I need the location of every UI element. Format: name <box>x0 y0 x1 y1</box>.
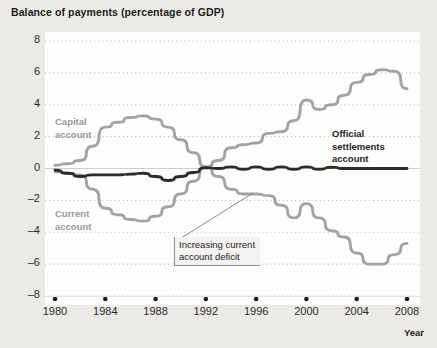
official-settlements-label-line1: Official <box>332 128 364 139</box>
y-tick-label: 6 <box>20 65 40 77</box>
x-tick-label: 1988 <box>136 305 176 317</box>
x-tick-label: 1992 <box>186 305 226 317</box>
y-tick-label: –4 <box>20 224 40 236</box>
x-tick-label: 2004 <box>337 305 377 317</box>
capital-account-label-line1: Capital <box>55 116 87 127</box>
current-account-label-line1: Current <box>55 208 89 219</box>
official-settlements-label: Official settlements account <box>332 128 385 166</box>
y-tick-label: 0 <box>20 161 40 173</box>
capital-account-label-line2: account <box>55 129 91 140</box>
x-tick-label: 1980 <box>35 305 75 317</box>
x-tick-label: 1996 <box>236 305 276 317</box>
y-tick-label: –8 <box>20 288 40 300</box>
x-tick-marker <box>405 297 410 302</box>
plot-canvas <box>0 0 437 348</box>
y-tick-label: –6 <box>20 256 40 268</box>
x-tick-marker <box>204 297 209 302</box>
x-tick-label: 1984 <box>85 305 125 317</box>
y-tick-label: 8 <box>20 33 40 45</box>
x-tick-label: 2008 <box>387 305 427 317</box>
x-axis-title: Year <box>404 327 424 338</box>
capital-account-label: Capital account <box>55 116 91 141</box>
chart-figure: Balance of payments (percentage of GDP) … <box>0 0 437 348</box>
y-tick-label: 2 <box>20 129 40 141</box>
callout-line2: account deficit <box>179 251 240 262</box>
callout-increasing-deficit: Increasing current account deficit <box>174 237 260 266</box>
x-tick-marker <box>53 297 58 302</box>
callout-line1: Increasing current <box>179 239 255 250</box>
x-tick-marker <box>304 297 309 302</box>
official-settlements-label-line2: settlements <box>332 141 385 152</box>
y-tick-label: 4 <box>20 97 40 109</box>
x-tick-marker <box>103 297 108 302</box>
official-settlements-label-line3: account <box>332 153 368 164</box>
current-account-label-line2: account <box>55 221 91 232</box>
x-tick-marker <box>254 297 259 302</box>
x-tick-marker <box>153 297 158 302</box>
x-tick-marker <box>354 297 359 302</box>
y-tick-label: –2 <box>20 192 40 204</box>
current-account-label: Current account <box>55 208 91 233</box>
x-tick-label: 2000 <box>286 305 326 317</box>
